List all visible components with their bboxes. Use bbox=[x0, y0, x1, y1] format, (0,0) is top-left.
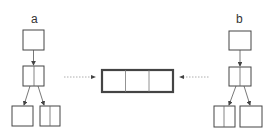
center-node bbox=[102, 70, 173, 92]
a-root-node bbox=[23, 30, 44, 50]
diagram-canvas: a b bbox=[0, 0, 272, 134]
b-root-node bbox=[229, 31, 251, 50]
a-mid-node bbox=[23, 66, 44, 86]
tree-b-label: b bbox=[236, 12, 243, 26]
tree-b: b bbox=[214, 12, 262, 127]
left-dotted-arrow bbox=[64, 75, 96, 79]
tree-a-label: a bbox=[31, 12, 38, 26]
right-dotted-arrow bbox=[179, 75, 209, 79]
b-leaf-left-node bbox=[214, 106, 235, 127]
a-leaf-left-node bbox=[12, 106, 33, 126]
tree-a: a bbox=[12, 12, 60, 126]
b-leaf-right-node bbox=[240, 106, 262, 127]
